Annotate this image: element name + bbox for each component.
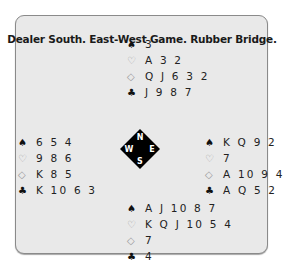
diamond-icon: ◇ [127,233,145,249]
west-diamonds: ◇K 8 5 [18,166,97,182]
south-diamonds: ◇7 [127,232,233,248]
club-icon: ♣ [127,85,145,101]
diamond-icon: ◇ [205,167,223,183]
compass-north-label: N [137,133,144,142]
spade-icon: ♠ [205,135,223,151]
south-hand: ♠A J 10 8 7 ♡K Q J 10 5 4 ◇7 ♣4 [127,200,233,264]
spade-icon: ♠ [18,135,36,151]
east-clubs: ♣A Q 5 2 [205,182,284,198]
spade-icon: ♠ [127,37,145,53]
club-icon: ♣ [18,183,36,199]
compass-east-label: E [149,145,154,154]
east-hearts: ♡7 [205,150,284,166]
east-diamonds: ◇A 10 9 4 [205,166,284,182]
spade-icon: ♠ [127,201,145,217]
heart-icon: ♡ [18,151,36,167]
west-spades: ♠6 5 4 [18,134,97,150]
north-clubs: ♣J 9 8 7 [127,84,210,100]
diamond-icon: ◇ [18,167,36,183]
south-hearts: ♡K Q J 10 5 4 [127,216,233,232]
south-spades: ♠A J 10 8 7 [127,200,233,216]
north-spades: ♠3 [127,36,210,52]
west-hand: ♠6 5 4 ♡9 8 6 ◇K 8 5 ♣K 10 6 3 [18,134,97,198]
diamond-icon: ◇ [127,69,145,85]
club-icon: ♣ [127,249,145,265]
west-hearts: ♡9 8 6 [18,150,97,166]
compass-south-label: S [137,157,143,166]
south-clubs: ♣4 [127,248,233,264]
heart-icon: ♡ [127,53,145,69]
east-hand: ♠K Q 9 2 ♡7 ◇A 10 9 4 ♣A Q 5 2 [205,134,284,198]
north-diamonds: ◇Q J 6 3 2 [127,68,210,84]
north-hand: ♠3 ♡A 3 2 ◇Q J 6 3 2 ♣J 9 8 7 [127,36,210,100]
west-clubs: ♣K 10 6 3 [18,182,97,198]
east-spades: ♠K Q 9 2 [205,134,284,150]
compass-icon: N E S W [119,128,161,170]
north-hearts: ♡A 3 2 [127,52,210,68]
heart-icon: ♡ [205,151,223,167]
club-icon: ♣ [205,183,223,199]
compass-west-label: W [125,145,134,154]
heart-icon: ♡ [127,217,145,233]
